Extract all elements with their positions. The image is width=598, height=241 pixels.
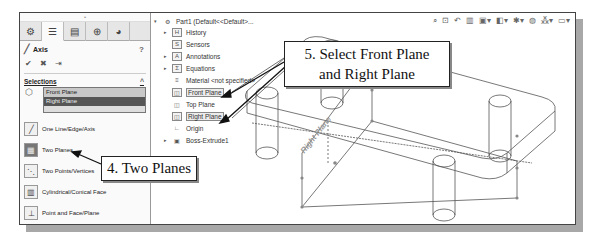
two-points-icon: ⋱: [24, 164, 38, 178]
option-one-line-edge-axis[interactable]: ╱ One Line/Edge/Axis: [20, 119, 150, 139]
heads-up-toolbar: ⌕ ⊡ ↶ ▥ ▣▾ ◧▾ ✱▾ ◍ ⁂▾ ▭▾: [433, 16, 570, 26]
feature-manager-icon: ⚙: [26, 26, 35, 37]
plane-icon: ◫: [172, 88, 182, 97]
pm-actions: ✔ ✖ ⇥: [20, 57, 150, 69]
apply-scene-icon[interactable]: ⁂▾: [541, 16, 553, 26]
equations-icon: Σ: [172, 64, 182, 73]
tree-item-top-plane[interactable]: ◫ Top Plane: [164, 99, 215, 109]
tab-configuration-manager[interactable]: ▤: [64, 22, 86, 41]
history-icon: H: [172, 28, 182, 37]
expand-arrow-icon[interactable]: ▸: [164, 137, 172, 143]
tab-display-manager[interactable]: ◕: [108, 22, 130, 41]
ok-button[interactable]: ✔: [25, 59, 32, 68]
expand-arrow-icon[interactable]: ▸: [164, 65, 172, 71]
tree-item-sensors[interactable]: S Sensors: [164, 39, 210, 49]
hide-show-icon[interactable]: ✱▾: [513, 16, 524, 26]
tree-root-part1[interactable]: ▾ ⚙ Part1 (Default<<Default>...: [154, 16, 254, 26]
tab-dimxpert-manager[interactable]: ⊕: [86, 22, 108, 41]
view-orientation-icon[interactable]: ▣▾: [479, 16, 491, 26]
sensors-icon: S: [172, 40, 182, 49]
cylinder-face-icon: ▥: [24, 185, 38, 199]
dimxpert-icon: ⊕: [93, 26, 101, 37]
cancel-button[interactable]: ✖: [40, 59, 47, 68]
step5-callout: 5. Select Front Plane and Right Plane: [284, 41, 450, 87]
material-icon: ≡: [172, 76, 182, 85]
two-planes-icon: ▦: [24, 143, 38, 157]
panel-grip[interactable]: •: [20, 13, 150, 22]
expand-arrow-icon[interactable]: ▸: [164, 53, 172, 59]
previous-view-icon[interactable]: ↶: [454, 16, 461, 26]
tree-item-front-plane[interactable]: ◫ Front Plane: [164, 87, 224, 97]
property-manager-icon: ☰: [48, 26, 57, 37]
zoom-area-icon[interactable]: ⊡: [442, 16, 449, 26]
extrude-icon: ▣: [172, 136, 182, 145]
selection-item-front-plane[interactable]: Front Plane: [44, 88, 145, 97]
line-edge-icon: ╱: [24, 122, 38, 136]
origin-icon: ∟: [172, 124, 182, 133]
point-face-icon: ⊥: [24, 206, 38, 220]
zoom-to-fit-icon[interactable]: ⌕: [433, 16, 437, 26]
tree-item-equations[interactable]: ▸ Σ Equations: [164, 63, 215, 73]
annotations-icon: A: [172, 52, 182, 61]
tree-item-origin[interactable]: ∟ Origin: [164, 123, 203, 133]
tab-property-manager[interactable]: ☰: [42, 22, 64, 41]
option-point-and-face-plane[interactable]: ⊥ Point and Face/Plane: [20, 203, 150, 223]
feature-manager-tree: ▾ ⚙ Part1 (Default<<Default>... ▸ H Hist…: [152, 13, 302, 213]
display-manager-icon: ◕: [115, 26, 121, 37]
manager-tabs: ⚙ ☰ ▤ ⊕ ◕: [20, 22, 150, 41]
selection-item-right-plane[interactable]: Right Plane: [44, 97, 145, 106]
option-cylindrical-conical-face[interactable]: ▥ Cylindrical/Conical Face: [20, 182, 150, 202]
axis-property-manager: • ⚙ ☰ ▤ ⊕ ◕ ╱ Axis ? ✔ ✖ ⇥ Selections ^ …: [20, 13, 151, 224]
tree-item-history[interactable]: ▸ H History: [164, 27, 206, 37]
view-settings-icon[interactable]: ▭▾: [558, 16, 570, 26]
tree-item-annotations[interactable]: ▸ A Annotations: [164, 51, 220, 61]
help-icon[interactable]: ?: [139, 45, 144, 54]
collapse-arrow-icon[interactable]: ▾: [154, 18, 162, 24]
display-style-icon[interactable]: ◧▾: [496, 16, 508, 26]
plane-icon: ◫: [172, 100, 182, 109]
selections-listbox[interactable]: Front Plane Right Plane: [43, 87, 146, 113]
part-icon: ⚙: [162, 17, 172, 26]
tree-item-boss-extrude1[interactable]: ▸ ▣ Boss-Extrude1: [164, 135, 229, 145]
selections-row: ⬡ Front Plane Right Plane: [20, 87, 150, 113]
step5-line2: and Right Plane: [285, 64, 449, 84]
tree-item-material[interactable]: ≡ Material <not specified>: [164, 75, 255, 85]
tab-feature-manager[interactable]: ⚙: [20, 22, 42, 41]
edit-appearance-icon[interactable]: ◍: [529, 16, 536, 26]
expand-arrow-icon[interactable]: ▸: [164, 29, 172, 35]
pm-title-row: ╱ Axis ?: [20, 41, 150, 57]
configuration-manager-icon: ▤: [70, 26, 79, 37]
reference-entities-icon: ⬡: [25, 87, 39, 113]
pushpin-button[interactable]: ⇥: [55, 59, 62, 68]
pm-title: Axis: [33, 46, 48, 53]
collapse-icon[interactable]: ^: [140, 78, 144, 85]
selections-label: Selections: [24, 78, 57, 85]
step5-line1: 5. Select Front Plane: [285, 44, 449, 64]
selections-header[interactable]: Selections ^: [20, 74, 150, 87]
axis-icon: ╱: [24, 44, 29, 54]
section-view-icon[interactable]: ▥: [466, 16, 474, 26]
tree-item-right-plane[interactable]: ◫ Right Plane: [164, 111, 224, 121]
plane-icon: ◫: [172, 112, 182, 121]
step4-callout: 4. Two Planes: [101, 156, 197, 181]
